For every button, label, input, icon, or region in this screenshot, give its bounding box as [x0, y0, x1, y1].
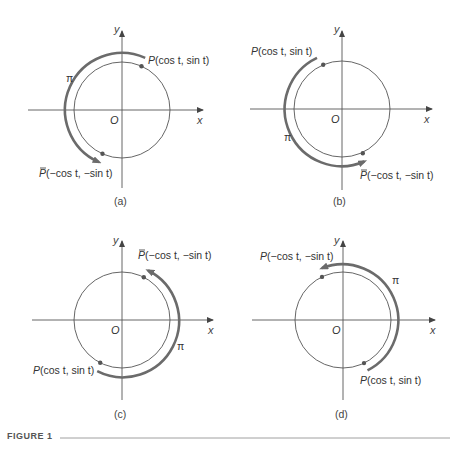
- x-axis-label: x: [207, 324, 214, 336]
- point-pbar-dot: [100, 152, 104, 156]
- point-p-label: P(cos t, sin t): [360, 374, 421, 386]
- point-p-dot: [362, 361, 366, 365]
- x-axis-label: x: [423, 113, 430, 125]
- point-p-dot: [321, 63, 325, 67]
- point-pbar-label: P(−cos t, −sin t): [260, 250, 334, 262]
- point-pbar-dot: [361, 151, 365, 155]
- panel-c: y x O π P(cos t, sin t) P(−cos t, −sin t…: [32, 234, 214, 420]
- point-pbar-dot: [142, 275, 146, 279]
- pi-label: π: [177, 340, 184, 352]
- x-axis-label: x: [196, 114, 203, 126]
- panel-caption: (b): [333, 195, 346, 207]
- x-axis-label: x: [429, 324, 436, 336]
- figure-label: FIGURE 1: [7, 431, 53, 441]
- y-axis-label: y: [333, 234, 341, 246]
- point-p-dot: [98, 361, 102, 365]
- panel-a: y x O π P(cos t, sin t) P(−cos t, −sin t…: [28, 23, 209, 207]
- origin-label: O: [331, 113, 340, 125]
- point-pbar-label: P(−cos t, −sin t): [138, 249, 212, 261]
- pi-label: π: [284, 131, 291, 143]
- y-axis-label: y: [113, 23, 121, 35]
- pi-arc-arrow: [322, 264, 398, 370]
- point-p-label: P(cos t, sin t): [148, 54, 209, 66]
- pi-arc-arrow: [97, 271, 179, 378]
- pi-label: π: [66, 72, 73, 84]
- pi-label: π: [392, 274, 399, 286]
- figure-canvas: y x O π P(cos t, sin t) P(−cos t, −sin t…: [0, 0, 462, 449]
- origin-label: O: [111, 324, 120, 336]
- point-pbar-label: P(−cos t, −sin t): [360, 169, 434, 181]
- point-pbar-label: P(−cos t, −sin t): [39, 167, 113, 179]
- point-pbar-dot: [320, 275, 324, 279]
- origin-label: O: [110, 114, 119, 126]
- point-p-label: P(cos t, sin t): [33, 364, 94, 376]
- point-p-label: P(cos t, sin t): [251, 45, 312, 57]
- pi-arc-arrow: [65, 53, 145, 162]
- figure-caption: FIGURE 1: [7, 431, 450, 441]
- panel-d: y x O π P(−cos t, −sin t) P(cos t, sin t…: [252, 234, 436, 420]
- origin-label: O: [332, 324, 341, 336]
- point-p-dot: [139, 64, 143, 68]
- panel-caption: (a): [114, 195, 127, 207]
- panel-caption: (c): [114, 408, 126, 420]
- panel-b: y x O π P(cos t, sin t) P(−cos t, −sin t…: [250, 23, 434, 207]
- y-axis-label: y: [112, 234, 120, 246]
- y-axis-label: y: [333, 23, 341, 35]
- panel-caption: (d): [335, 408, 348, 420]
- pi-arc-arrow: [285, 58, 365, 166]
